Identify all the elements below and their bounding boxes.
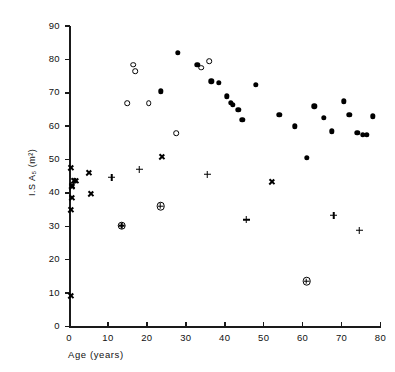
data-point-filled-circle bbox=[292, 124, 297, 129]
x-tick bbox=[146, 322, 148, 327]
data-point-filled-circle bbox=[175, 50, 180, 55]
data-point-x-marker bbox=[73, 178, 80, 185]
x-tick-label: 10 bbox=[93, 332, 123, 343]
data-point-crossed-circle bbox=[117, 221, 126, 230]
x-tick-label: 20 bbox=[132, 332, 162, 343]
y-tick-label: 20 bbox=[0, 253, 60, 264]
y-tick-label: 70 bbox=[0, 86, 60, 97]
y-tick bbox=[65, 125, 70, 127]
data-point-filled-circle bbox=[240, 117, 245, 122]
y-tick-label: 90 bbox=[0, 20, 60, 31]
data-point-filled-circle bbox=[216, 80, 221, 85]
data-point-filled-circle bbox=[347, 112, 352, 117]
data-point-filled-circle bbox=[364, 132, 369, 137]
data-point-x-marker bbox=[85, 169, 92, 176]
x-tick bbox=[380, 322, 382, 327]
y-tick bbox=[65, 226, 70, 228]
y-tick bbox=[65, 25, 70, 27]
data-point-filled-circle bbox=[341, 99, 346, 104]
y-tick bbox=[65, 59, 70, 61]
x-tick bbox=[185, 322, 187, 327]
data-point-open-circle bbox=[130, 62, 136, 68]
data-point-plus-marker bbox=[108, 174, 115, 181]
x-tick-label: 80 bbox=[366, 332, 395, 343]
y-tick bbox=[65, 259, 70, 261]
data-point-x-marker bbox=[268, 179, 275, 186]
data-point-filled-circle bbox=[312, 104, 317, 109]
x-tick-label: 30 bbox=[171, 332, 201, 343]
y-tick-label: 60 bbox=[0, 120, 60, 131]
data-point-open-circle bbox=[132, 68, 138, 74]
data-point-open-circle bbox=[173, 130, 179, 136]
y-tick-label: 30 bbox=[0, 220, 60, 231]
data-point-filled-circle bbox=[304, 155, 309, 160]
data-point-x-marker bbox=[68, 293, 75, 300]
x-tick bbox=[302, 322, 304, 327]
x-tick bbox=[263, 322, 265, 327]
data-point-x-marker bbox=[68, 195, 75, 202]
x-tick-label: 50 bbox=[249, 332, 279, 343]
data-point-crossed-circle bbox=[156, 202, 165, 211]
data-point-open-circle bbox=[206, 58, 212, 64]
x-tick-label: 0 bbox=[54, 332, 84, 343]
y-tick bbox=[65, 92, 70, 94]
x-tick-label: 40 bbox=[210, 332, 240, 343]
data-point-plus-marker bbox=[243, 216, 250, 223]
data-point-filled-circle bbox=[321, 115, 326, 120]
x-tick bbox=[224, 322, 226, 327]
y-tick-label: 0 bbox=[0, 320, 60, 331]
x-tick bbox=[107, 322, 109, 327]
y-tick bbox=[65, 192, 70, 194]
y-axis-title: I.S A₅ (m²) bbox=[27, 149, 37, 196]
data-point-x-marker bbox=[87, 191, 94, 198]
data-point-crossed-circle bbox=[302, 277, 311, 286]
data-point-filled-circle bbox=[277, 112, 282, 117]
data-point-plus-marker bbox=[356, 227, 363, 234]
y-tick-label: 10 bbox=[0, 287, 60, 298]
scatter-plot-figure: 0102030405060708090 01020304050607080 I.… bbox=[0, 0, 395, 372]
data-point-filled-circle bbox=[370, 114, 375, 119]
y-tick-label: 80 bbox=[0, 53, 60, 64]
x-tick bbox=[341, 322, 343, 327]
y-tick bbox=[65, 159, 70, 161]
data-point-x-marker bbox=[68, 206, 75, 213]
data-point-x-marker bbox=[67, 165, 74, 172]
data-point-filled-circle bbox=[230, 102, 235, 107]
data-point-open-circle bbox=[146, 100, 152, 106]
data-point-plus-marker bbox=[204, 171, 211, 178]
x-axis-title: Age (years) bbox=[68, 349, 124, 360]
data-point-filled-circle bbox=[208, 79, 213, 84]
data-point-filled-circle bbox=[329, 129, 334, 134]
data-point-filled-circle bbox=[253, 82, 258, 87]
data-point-open-circle bbox=[125, 100, 131, 106]
x-tick-label: 60 bbox=[288, 332, 318, 343]
data-point-filled-circle bbox=[236, 107, 241, 112]
data-point-filled-circle bbox=[354, 130, 359, 135]
data-point-x-marker bbox=[158, 154, 165, 161]
data-point-filled-circle bbox=[158, 89, 163, 94]
data-point-filled-circle bbox=[224, 94, 229, 99]
y-tick bbox=[65, 326, 70, 328]
x-tick-label: 70 bbox=[327, 332, 357, 343]
data-point-plus-marker bbox=[330, 212, 337, 219]
data-point-open-circle bbox=[199, 65, 205, 71]
data-point-plus-marker bbox=[136, 166, 143, 173]
